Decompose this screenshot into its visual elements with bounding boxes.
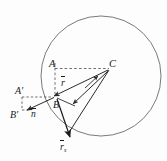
label-point-b-prime: B′ <box>10 110 18 120</box>
diagram-svg <box>0 0 167 161</box>
label-point-a: A <box>49 59 55 70</box>
label-point-a-prime: A′ <box>15 86 23 96</box>
vector-n-text: n <box>31 110 36 120</box>
main-circle <box>41 16 161 136</box>
vector-tau-subscript: s <box>64 146 66 153</box>
chord-segment <box>57 98 75 106</box>
label-point-b: B <box>53 100 59 110</box>
figure-container: A C A′ B B′ r n rs <box>0 0 167 161</box>
label-vector-r: r <box>61 78 65 88</box>
label-vector-n: n <box>31 110 36 120</box>
vector-r-text: r <box>61 78 65 88</box>
label-point-c: C <box>109 59 116 70</box>
label-vector-tau: rs <box>60 142 67 153</box>
vector-tau-text: r <box>60 142 64 152</box>
